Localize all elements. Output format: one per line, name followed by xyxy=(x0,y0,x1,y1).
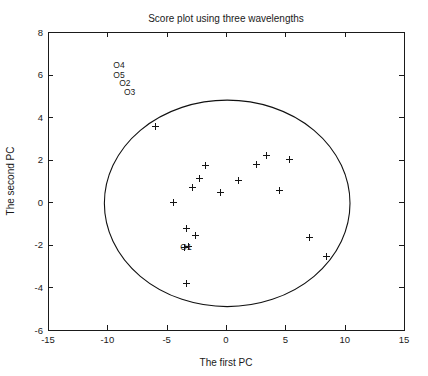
data-point-marker xyxy=(183,225,190,232)
data-point-marker xyxy=(152,123,159,130)
data-point-marker xyxy=(202,162,209,169)
outlier-label: O1 xyxy=(180,242,192,252)
x-tick-label: 10 xyxy=(339,334,350,345)
scatter-plot-svg: O4O5O2O3O1 -15-10-5051015-6-4-202468 Sco… xyxy=(0,0,428,376)
data-point-marker xyxy=(235,177,242,184)
y-tick-label: 6 xyxy=(38,69,43,80)
y-axis-title: The second PC xyxy=(5,147,16,216)
y-tick-label: -6 xyxy=(35,325,43,336)
x-axis-title: The first PC xyxy=(200,357,253,368)
data-markers-group xyxy=(152,123,330,287)
outlier-labels-group: O4O5O2O3O1 xyxy=(113,60,192,252)
y-tick-label: -2 xyxy=(35,239,43,250)
x-tick-label: -15 xyxy=(41,334,55,345)
x-tick-label: 15 xyxy=(399,334,410,345)
axes-group xyxy=(48,32,405,331)
axes-frame xyxy=(49,33,405,331)
confidence-ellipse-group xyxy=(104,100,350,306)
data-point-marker xyxy=(276,187,283,194)
data-point-marker xyxy=(192,232,199,239)
outlier-label: O3 xyxy=(124,87,136,97)
data-point-marker xyxy=(323,253,330,260)
y-tick-label: -4 xyxy=(35,282,43,293)
score-plot-figure: O4O5O2O3O1 -15-10-5051015-6-4-202468 Sco… xyxy=(0,0,428,376)
chart-title: Score plot using three wavelengths xyxy=(148,13,304,24)
y-tick-label: 0 xyxy=(38,197,43,208)
data-point-marker xyxy=(217,189,224,196)
y-tick-label: 4 xyxy=(38,112,43,123)
x-tick-label: 0 xyxy=(223,334,228,345)
y-tick-label: 8 xyxy=(38,27,43,38)
confidence-ellipse xyxy=(104,100,350,306)
data-point-marker xyxy=(189,184,196,191)
data-point-marker xyxy=(306,234,313,241)
data-point-marker xyxy=(196,175,203,182)
tick-labels-group: -15-10-5051015-6-4-202468 xyxy=(35,27,410,346)
x-tick-label: 5 xyxy=(283,334,288,345)
outlier-label: O4 xyxy=(113,60,125,70)
y-tick-label: 2 xyxy=(38,154,43,165)
data-point-marker xyxy=(286,156,293,163)
x-tick-label: -10 xyxy=(100,334,114,345)
x-tick-label: -5 xyxy=(162,334,170,345)
data-point-marker xyxy=(183,280,190,287)
data-point-marker xyxy=(170,199,177,206)
data-point-marker xyxy=(263,152,270,159)
data-point-marker xyxy=(253,161,260,168)
